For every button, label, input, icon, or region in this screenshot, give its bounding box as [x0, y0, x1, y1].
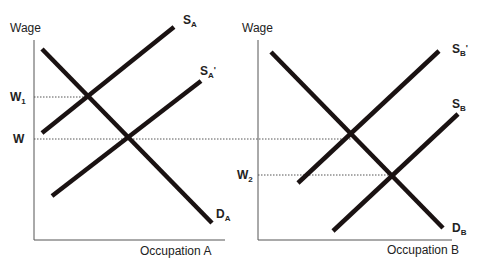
- left-panel-occupation-a: Wage Occupation A W1 W SA SA' DA: [10, 13, 352, 258]
- supply-a-label: SA: [183, 13, 197, 29]
- supply-curve-b-shifted: [298, 51, 439, 183]
- right-y-axis-label: Wage: [242, 21, 273, 35]
- supply-b-shifted-label: SB': [452, 42, 468, 58]
- right-x-axis-label: Occupation B: [387, 243, 459, 257]
- left-x-axis-label: Occupation A: [140, 244, 211, 258]
- demand-b-label: DB: [452, 221, 467, 237]
- demand-a-label: DA: [216, 207, 231, 223]
- w-label: W: [13, 132, 25, 146]
- demand-curve-b: [271, 52, 443, 228]
- supply-a-shifted-label: SA': [200, 64, 216, 80]
- supply-b-label: SB: [452, 97, 466, 113]
- left-y-axis-label: Wage: [10, 21, 41, 35]
- labor-market-diagram: Wage Occupation A W1 W SA SA' DA Wage Oc…: [0, 0, 477, 263]
- w2-label: W2: [237, 168, 253, 184]
- w1-label: W1: [10, 90, 26, 106]
